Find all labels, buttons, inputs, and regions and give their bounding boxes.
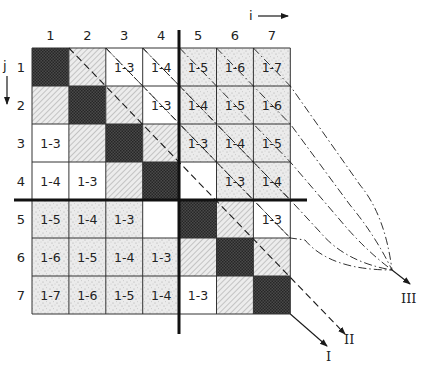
- flow-line-III: [392, 270, 410, 284]
- j-axis-indicator: j: [2, 58, 7, 104]
- matrix-cell: 1-5: [32, 200, 69, 238]
- row-header: 3: [17, 136, 25, 151]
- cell-label: 1-5: [114, 288, 134, 303]
- matrix-cell: 1-3: [69, 162, 106, 200]
- matrix-cell: 1-5: [69, 238, 106, 276]
- column-header: 1: [46, 28, 54, 43]
- cell-label: 1-4: [40, 174, 60, 189]
- cell-label: 1-6: [40, 250, 60, 265]
- matrix-cell: 1-4: [69, 200, 106, 238]
- matrix-cell: 1-3: [180, 276, 217, 314]
- cell-label: 1-4: [77, 212, 97, 227]
- cell-label: 1-5: [188, 60, 208, 75]
- column-header: 2: [83, 28, 91, 43]
- cell-label: 1-7: [40, 288, 60, 303]
- output-label-I: I: [326, 349, 331, 364]
- matrix-cell: 1-3: [106, 200, 143, 238]
- matrix-cell: [217, 200, 254, 238]
- row-header: 5: [17, 212, 25, 227]
- matrix-cell: 1-7: [32, 276, 69, 314]
- cell-label: 1-4: [151, 60, 171, 75]
- row-header: 7: [17, 288, 25, 303]
- i-axis-label: i: [249, 8, 253, 23]
- cell-label: 1-4: [151, 288, 171, 303]
- cell-label: 1-3: [77, 174, 97, 189]
- row-headers: 1234567: [17, 60, 25, 303]
- column-headers: 1234567: [46, 28, 276, 43]
- matrix-cell: [106, 162, 143, 200]
- matrix-cell: 1-3: [143, 238, 180, 276]
- cell-label: 1-3: [188, 288, 208, 303]
- cell-label: 1-7: [262, 60, 282, 75]
- matrix-diagram: 1-31-41-51-61-71-31-41-51-61-31-31-41-51…: [0, 0, 428, 365]
- matrix-cell: 1-4: [143, 276, 180, 314]
- matrix-cell: [253, 276, 290, 314]
- cell-label: 1-5: [40, 212, 60, 227]
- matrix-cell: 1-5: [106, 276, 143, 314]
- matrix-cell: [143, 162, 180, 200]
- matrix-cell: [69, 124, 106, 162]
- column-header: 5: [194, 28, 202, 43]
- matrix-cell: 1-3: [32, 124, 69, 162]
- column-header: 6: [231, 28, 239, 43]
- row-header: 1: [17, 60, 25, 75]
- cell-label: 1-6: [225, 60, 245, 75]
- matrix-cell: [217, 238, 254, 276]
- row-header: 6: [17, 250, 25, 265]
- cell-label: 1-4: [114, 250, 134, 265]
- matrix-cell: [217, 276, 254, 314]
- output-label-III: III: [401, 291, 416, 306]
- matrix-cell: [143, 200, 180, 238]
- cell-label: 1-5: [262, 136, 282, 151]
- cell-label: 1-3: [151, 250, 171, 265]
- matrix-cell: [253, 238, 290, 276]
- row-header: 4: [17, 174, 25, 189]
- row-header: 2: [17, 98, 25, 113]
- output-label-II: II: [344, 332, 354, 347]
- cell-label: 1-3: [40, 136, 60, 151]
- matrix-cell: [32, 48, 69, 86]
- cell-label: 1-6: [77, 288, 97, 303]
- cell-label: 1-3: [114, 212, 134, 227]
- column-header: 7: [268, 28, 276, 43]
- matrix-cell: 1-4: [32, 162, 69, 200]
- cell-label: 1-4: [225, 136, 245, 151]
- matrix-cell: [180, 200, 217, 238]
- matrix-cell: [69, 86, 106, 124]
- flow-line-I: [290, 314, 327, 346]
- matrix-cells: 1-31-41-51-61-71-31-41-51-61-31-31-41-51…: [32, 48, 290, 314]
- matrix-cell: [32, 86, 69, 124]
- column-header: 3: [120, 28, 128, 43]
- matrix-cell: [180, 238, 217, 276]
- matrix-cell: 1-4: [106, 238, 143, 276]
- matrix-cell: [106, 124, 143, 162]
- column-header: 4: [157, 28, 165, 43]
- matrix-cell: 1-6: [69, 276, 106, 314]
- matrix-cell: 1-6: [32, 238, 69, 276]
- cell-label: 1-5: [77, 250, 97, 265]
- j-axis-label: j: [2, 58, 7, 73]
- i-axis-indicator: i: [249, 8, 288, 23]
